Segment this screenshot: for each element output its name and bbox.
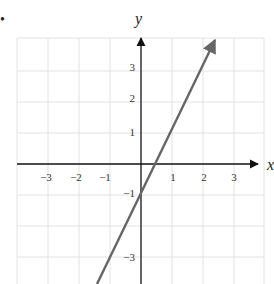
- y-tick-labels: 3 2 1 −1 −3: [123, 61, 135, 263]
- x-tick-label: −1: [99, 171, 111, 183]
- coordinate-plane: • y x −3 −2 −1 1 2 3 3 2 1 −1 −3: [0, 0, 274, 284]
- x-tick-label: −2: [70, 171, 82, 183]
- y-tick-label: −1: [123, 187, 135, 199]
- x-axis-label: x: [266, 156, 274, 173]
- x-tick-label: 3: [231, 171, 237, 183]
- y-tick-label: 2: [130, 92, 136, 104]
- x-tick-label: −3: [40, 171, 52, 183]
- x-tick-labels: −3 −2 −1 1 2 3: [40, 171, 237, 183]
- function-line: [97, 40, 215, 284]
- y-axis-label: y: [133, 10, 143, 28]
- x-tick-label: 1: [170, 171, 176, 183]
- x-tick-label: 2: [201, 171, 207, 183]
- y-tick-label: 1: [130, 126, 136, 138]
- y-tick-label: 3: [130, 61, 136, 73]
- y-tick-label: −3: [123, 251, 135, 263]
- bullet: •: [0, 12, 5, 27]
